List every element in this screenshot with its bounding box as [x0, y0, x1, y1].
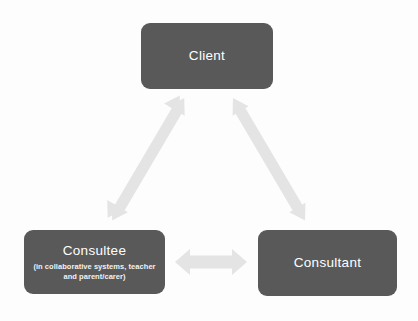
- arrow-consultee-consultant: [175, 249, 247, 275]
- arrow-client-consultant: [225, 93, 313, 225]
- node-client-label: Client: [189, 48, 225, 64]
- consultation-triangle-diagram: Client Consultee (in collaborative syste…: [0, 0, 418, 321]
- node-consultant[interactable]: Consultant: [258, 230, 397, 296]
- arrow-consultee-client: [100, 91, 193, 225]
- node-client[interactable]: Client: [141, 23, 273, 89]
- node-consultant-label: Consultant: [294, 255, 362, 271]
- node-consultee-subtitle: (in collaborative systems, teacher and p…: [32, 262, 157, 282]
- node-consultee-label: Consultee: [63, 243, 127, 259]
- node-consultee[interactable]: Consultee (in collaborative systems, tea…: [24, 230, 165, 294]
